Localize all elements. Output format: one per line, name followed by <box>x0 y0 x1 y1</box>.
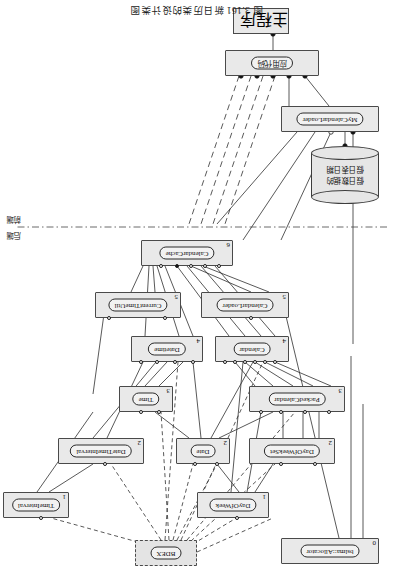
component-label: bslma::Allocator <box>300 545 359 558</box>
interface-ball-icon <box>273 360 277 364</box>
component-level: 4 <box>197 337 201 345</box>
interface-ball-icon <box>235 516 239 520</box>
component-calendarloader[interactable]: CalendarLoader 5 <box>201 292 289 318</box>
interface-ball-icon <box>103 462 107 466</box>
interface-ball-icon <box>313 462 317 466</box>
component-level: 2 <box>329 439 333 447</box>
component-label: CurrentTimeUtil <box>109 299 168 312</box>
component-packedcalendar[interactable]: PackedCalendar 3 <box>249 386 345 412</box>
datastore-label-line1: 假日数据的 <box>311 175 379 186</box>
component-bdex[interactable]: BDEX <box>135 540 197 566</box>
component-label: CalendarCache <box>160 247 215 260</box>
interface-ball-icon <box>163 316 167 320</box>
interface-ball-icon <box>279 410 283 414</box>
tier-label-lower: 前端 <box>7 215 21 224</box>
interface-ball-icon <box>263 360 267 364</box>
component-timeinterval[interactable]: TimeInterval 1 <box>3 492 69 518</box>
component-datetime[interactable]: Datetime 4 <box>131 336 203 362</box>
tier-label-upper: 后端 <box>7 231 21 240</box>
interface-ball-icon <box>259 410 263 414</box>
interface-ball-icon <box>155 360 159 364</box>
component-currenttimeutil[interactable]: CurrentTimeUtil 5 <box>95 292 181 318</box>
component-app-code[interactable]: 应用代码 <box>225 50 319 76</box>
component-level: 1 <box>63 493 67 501</box>
component-level: 3 <box>167 387 171 395</box>
component-level: 4 <box>283 337 287 345</box>
component-label: CalendarLoader <box>216 299 273 312</box>
interface-ball-icon <box>191 360 195 364</box>
component-label: DateTimeInterval <box>70 445 132 458</box>
component-level: 2 <box>224 439 228 447</box>
interface-ball-icon <box>39 516 43 520</box>
component-dayofweek[interactable]: DayOfWeek 1 <box>197 492 269 518</box>
datastore-label-line2: 假日表日期 <box>311 164 379 175</box>
interface-ball-icon <box>215 462 219 466</box>
interface-ball-icon <box>157 410 161 414</box>
component-level: 1 <box>263 493 267 501</box>
component-label: BDEX <box>150 547 181 560</box>
interface-ball-icon <box>173 360 177 364</box>
interface-ball-icon <box>327 410 331 414</box>
component-label: Calendar <box>233 343 270 356</box>
component-mycalendarloader[interactable]: MyCalendarLoader <box>281 106 379 132</box>
component-label: DayOfWeek <box>210 499 257 512</box>
loader-to-cache <box>217 132 297 224</box>
interface-ball-icon <box>233 360 237 364</box>
component-level: 3 <box>339 387 343 395</box>
component-calendar[interactable]: Calendar 4 <box>215 336 289 362</box>
component-level: 0 <box>373 539 377 547</box>
interface-ball-icon <box>139 410 143 414</box>
component-label: MyCalendarLoader <box>297 113 364 126</box>
interface-ball-icon <box>217 264 221 268</box>
interface-ball-icon <box>279 462 283 466</box>
interface-ball-icon <box>243 360 247 364</box>
cylinder-top <box>311 190 379 204</box>
component-level: 2 <box>138 439 142 447</box>
datastore-holiday-db[interactable]: 假日数据的 假日表日期 <box>311 146 379 204</box>
component-calendarcache[interactable]: CalendarCache 6 <box>141 240 233 266</box>
component-label: TimeInterval <box>12 499 60 512</box>
component-date[interactable]: Date 2 <box>176 438 230 464</box>
component-level: 6 <box>227 241 231 249</box>
datastore-label: 假日数据的 假日表日期 <box>311 164 379 186</box>
component-label: Datetime <box>148 343 186 356</box>
component-label: Date <box>190 445 215 458</box>
interface-ball-icon <box>223 360 227 364</box>
cylinder-bottom <box>311 146 379 160</box>
component-level: 5 <box>175 293 179 301</box>
interface-ball-icon <box>193 462 197 466</box>
component-time[interactable]: Time 3 <box>119 386 173 412</box>
app-fanin-edges <box>289 76 329 106</box>
component-label: 应用代码 <box>251 57 293 70</box>
interface-ball-icon <box>303 410 307 414</box>
interface-ball-icon <box>159 264 163 268</box>
component-label: Time <box>133 393 160 406</box>
interface-ball-icon <box>189 264 193 268</box>
interface-ball-icon <box>203 264 207 268</box>
component-label: PackedCalendar <box>268 393 325 406</box>
interface-ball-filled-icon <box>175 264 179 268</box>
component-dayofweekset[interactable]: DayOfWeekSet 2 <box>249 438 335 464</box>
interface-ball-icon <box>139 360 143 364</box>
component-bslma-allocator[interactable]: bslma::Allocator 0 <box>281 538 379 564</box>
interface-ball-icon <box>253 360 257 364</box>
component-level: 5 <box>283 293 287 301</box>
diagram-canvas: bslma::Allocator 0 BDEX DayOfWeek 1 Time… <box>0 0 393 584</box>
app-dependency-edges <box>189 76 275 224</box>
component-label: DayOfWeekSet <box>264 445 320 458</box>
interface-ball-icon <box>107 316 111 320</box>
component-datetimeinterval[interactable]: DateTimeInterval 2 <box>58 438 144 464</box>
interface-ball-icon <box>249 316 253 320</box>
figure-caption: 图 3.161 新日历类的设计类图 <box>0 4 393 18</box>
